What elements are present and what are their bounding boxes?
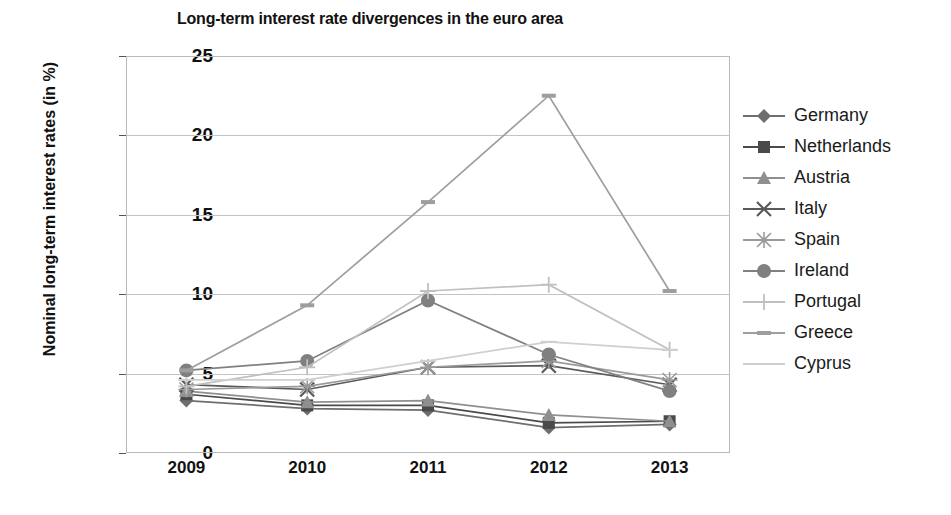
- x-tick-label-2013: 2013: [615, 458, 725, 478]
- legend-item-portugal[interactable]: Portugal: [742, 286, 947, 317]
- legend-marker-dash-icon: [742, 322, 786, 344]
- marker-circle: [663, 384, 677, 398]
- marker-line: [756, 363, 772, 365]
- legend-label: Spain: [794, 229, 840, 250]
- legend-item-germany[interactable]: Germany: [742, 100, 947, 131]
- series-layer: [126, 56, 730, 453]
- y-tick-mark-10: [119, 294, 126, 295]
- legend-label: Ireland: [794, 260, 849, 281]
- legend-marker-asterisk-icon: [742, 229, 786, 251]
- legend-marker-line-icon: [742, 353, 786, 375]
- legend-item-netherlands[interactable]: Netherlands: [742, 131, 947, 162]
- x-tick-label-2012: 2012: [494, 458, 604, 478]
- legend-label: Cyprus: [794, 353, 851, 374]
- legend-marker-diamond-icon: [742, 105, 786, 127]
- x-tick-label-2009: 2009: [131, 458, 241, 478]
- marker-line: [178, 379, 194, 381]
- marker-dash: [300, 303, 314, 307]
- marker-circle: [757, 264, 771, 278]
- legend-label: Italy: [794, 198, 827, 219]
- legend-item-italy[interactable]: Italy: [742, 193, 947, 224]
- y-tick-mark-20: [119, 135, 126, 136]
- series-portugal: [178, 277, 677, 395]
- legend-marker-square-icon: [742, 136, 786, 158]
- marker-plus: [756, 294, 772, 310]
- chart-title: Long-term interest rate divergences in t…: [0, 10, 740, 28]
- legend-marker-circle-icon: [742, 260, 786, 282]
- marker-line: [299, 379, 315, 381]
- legend-item-greece[interactable]: Greece: [742, 317, 947, 348]
- legend-label: Greece: [794, 322, 853, 343]
- marker-line: [662, 349, 678, 351]
- legend-marker-triangle-icon: [742, 167, 786, 189]
- legend-label: Netherlands: [794, 136, 891, 157]
- marker-dash: [421, 200, 435, 204]
- chart-legend: GermanyNetherlandsAustriaItalySpainIrela…: [742, 100, 947, 379]
- marker-circle: [542, 348, 556, 362]
- marker-line: [420, 360, 436, 362]
- y-tick-mark-5: [119, 374, 126, 375]
- marker-asterisk: [756, 232, 772, 248]
- legend-label: Austria: [794, 167, 850, 188]
- plot-area: [126, 56, 730, 453]
- marker-dash: [757, 331, 771, 335]
- y-tick-mark-25: [119, 56, 126, 57]
- x-tick-label-2011: 2011: [373, 458, 483, 478]
- marker-dash: [663, 289, 677, 293]
- marker-line: [541, 341, 557, 343]
- legend-item-cyprus[interactable]: Cyprus: [742, 348, 947, 379]
- series-greece: [179, 94, 676, 373]
- legend-item-ireland[interactable]: Ireland: [742, 255, 947, 286]
- y-axis-label: Nominal long-term interest rates (in %): [41, 0, 59, 419]
- legend-marker-plus-icon: [742, 291, 786, 313]
- marker-square: [758, 141, 770, 153]
- y-tick-mark-15: [119, 215, 126, 216]
- marker-dash: [542, 94, 556, 98]
- legend-label: Germany: [794, 105, 868, 126]
- marker-dash: [179, 368, 193, 372]
- legend-marker-cross-icon: [742, 198, 786, 220]
- y-tick-mark-0: [119, 453, 126, 454]
- legend-label: Portugal: [794, 291, 861, 312]
- marker-diamond: [757, 109, 771, 123]
- series-line: [186, 96, 669, 371]
- legend-item-austria[interactable]: Austria: [742, 162, 947, 193]
- legend-item-spain[interactable]: Spain: [742, 224, 947, 255]
- marker-plus: [541, 277, 557, 293]
- x-tick-label-2010: 2010: [252, 458, 362, 478]
- chart-root: Long-term interest rate divergences in t…: [0, 0, 951, 515]
